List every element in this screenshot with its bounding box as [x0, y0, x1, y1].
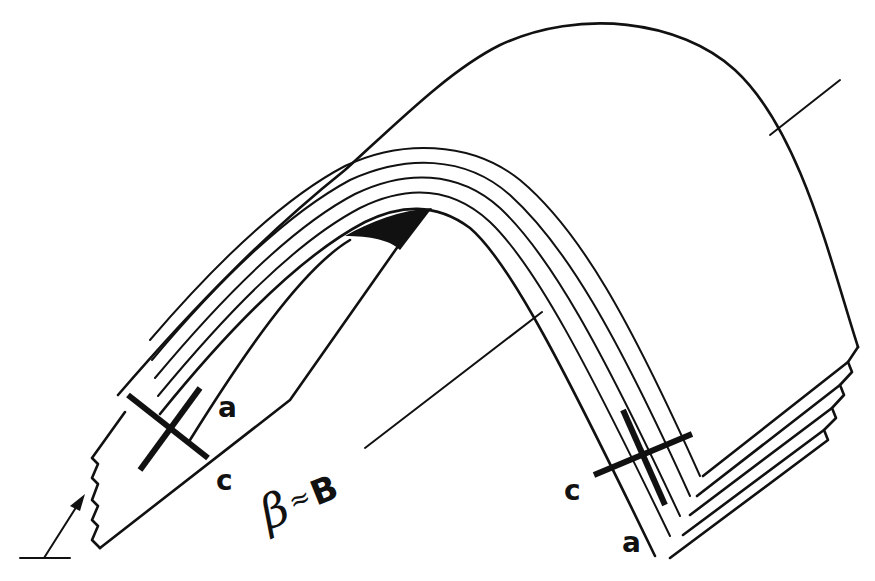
- layer-arc-3: [155, 177, 680, 516]
- right-limb-layer-1: [703, 362, 848, 476]
- outer-fold-surface: [118, 23, 858, 395]
- right-limb-layer-2: [697, 385, 840, 496]
- arrow-indicator: [20, 494, 85, 558]
- right-edge-steps: [670, 347, 858, 558]
- label-left-c: c: [216, 464, 233, 497]
- layer-arc-4: [158, 193, 670, 536]
- right-limb-layer-3: [690, 408, 832, 515]
- axial-plane-line-upper: [770, 80, 840, 135]
- arrow-head-icon: [70, 494, 85, 511]
- left-edge-steps: [92, 412, 125, 548]
- right-limb-layer-4: [683, 430, 824, 535]
- axial-plane-line-lower: [365, 312, 542, 448]
- beta-approx-b-label: β ≈ B: [250, 460, 346, 541]
- fold-diagram-svg: a c c a β ≈ B: [0, 0, 875, 581]
- label-left-a: a: [218, 391, 237, 424]
- layer-arc-5-inner: [160, 209, 655, 556]
- label-right-a: a: [622, 526, 641, 559]
- fold-diagram: a c c a β ≈ B: [0, 0, 875, 581]
- label-right-c: c: [564, 474, 581, 507]
